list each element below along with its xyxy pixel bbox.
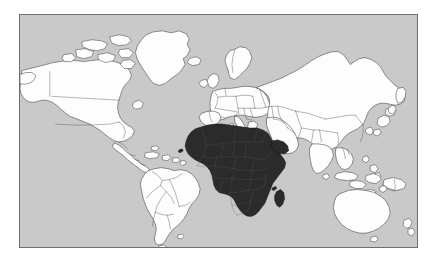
world-map-svg xyxy=(20,15,417,247)
map-frame xyxy=(19,14,418,248)
world-map-figure xyxy=(0,0,436,263)
